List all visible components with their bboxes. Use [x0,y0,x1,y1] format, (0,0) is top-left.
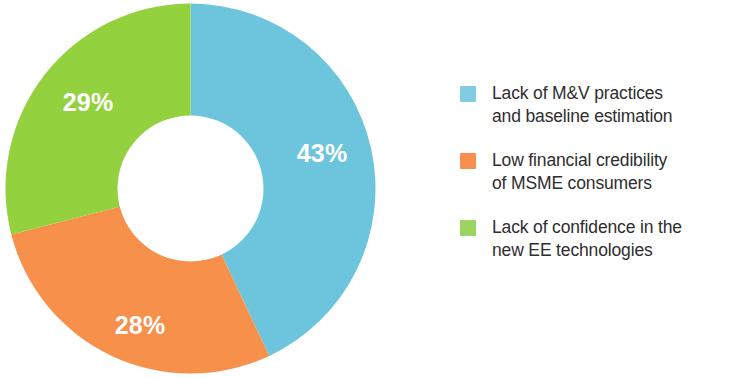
donut-chart-figure: 43% 28% 29% Lack of M&V practices and ba… [0,0,729,379]
slice-value-label-29: 29% [63,88,114,116]
slice-value-label-43: 43% [297,139,348,167]
legend-item-financial-credibility[interactable]: Low financial credibility of MSME consum… [460,149,722,195]
legend-item-mv-practices[interactable]: Lack of M&V practices and baseline estim… [460,82,722,128]
slice-value-label-28: 28% [115,311,166,339]
donut-chart-graphic: 43% 28% 29% [5,3,376,374]
legend-item-confidence-ee[interactable]: Lack of confidence in the new EE technol… [460,216,722,262]
donut-center-hole [118,116,264,262]
legend-label-mv-practices: Lack of M&V practices and baseline estim… [492,82,672,128]
legend-swatch-icon-blue [460,86,476,102]
legend-swatch-icon-green [460,220,476,236]
donut-svg: 43% 28% 29% [5,3,376,374]
legend-label-financial-credibility: Low financial credibility of MSME consum… [492,149,667,195]
legend-swatch-icon-orange [460,153,476,169]
legend-label-confidence-ee: Lack of confidence in the new EE technol… [492,216,682,262]
chart-legend: Lack of M&V practices and baseline estim… [460,82,722,262]
